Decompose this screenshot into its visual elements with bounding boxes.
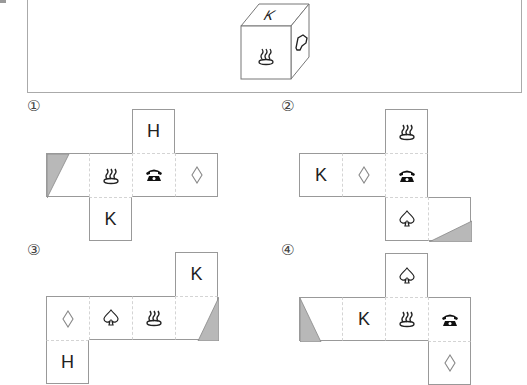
face-diamond (428, 341, 471, 385)
face-letter-h: H (46, 340, 89, 384)
letter-k: K (358, 309, 370, 330)
face-shaded-triangle (46, 153, 89, 197)
option-label-4[interactable]: ④ (281, 241, 294, 259)
shaded-triangle-icon (176, 297, 219, 341)
spade-icon (399, 267, 415, 285)
face-hot-spring (385, 109, 428, 153)
face-letter-k: K (89, 197, 132, 241)
diamond-icon (191, 166, 203, 184)
face-telephone (385, 153, 428, 197)
option-label-3[interactable]: ③ (27, 241, 40, 259)
option-label-2[interactable]: ② (281, 97, 294, 115)
telephone-icon (441, 313, 459, 327)
letter-k: K (190, 264, 202, 285)
face-letter-k: K (175, 252, 218, 296)
hot-spring-icon (398, 310, 416, 328)
face-letter-h: H (132, 109, 175, 153)
letter-k: K (104, 209, 116, 230)
reference-cube: K (0, 0, 527, 100)
face-hot-spring (132, 296, 175, 340)
shaded-triangle-icon (300, 298, 343, 342)
face-telephone (428, 297, 471, 341)
face-shaded-triangle (428, 197, 471, 241)
shaded-triangle-icon (47, 154, 90, 198)
option-label-1[interactable]: ① (27, 97, 40, 115)
hot-spring-icon (398, 123, 416, 141)
face-spade (385, 253, 428, 297)
letter-h: H (61, 352, 74, 373)
face-diamond (175, 153, 218, 197)
face-letter-k: K (299, 153, 342, 197)
diamond-icon (358, 166, 370, 184)
telephone-icon (145, 168, 163, 182)
diamond-icon (62, 310, 74, 328)
face-hot-spring (89, 153, 132, 197)
spade-icon (399, 210, 415, 228)
face-shaded-triangle (299, 297, 342, 341)
face-hot-spring (385, 297, 428, 341)
diamond-icon (444, 354, 456, 372)
face-diamond (46, 296, 89, 340)
letter-k: K (315, 165, 327, 186)
shaded-triangle-icon (429, 198, 472, 242)
hot-spring-icon (102, 167, 120, 185)
face-shaded-triangle (175, 296, 218, 340)
face-spade (89, 296, 132, 340)
face-letter-k: K (342, 297, 385, 341)
spade-icon (103, 309, 119, 327)
letter-h: H (147, 121, 160, 142)
cube-front-face (241, 26, 291, 79)
face-telephone (132, 153, 175, 197)
face-spade (385, 197, 428, 241)
hot-spring-icon (145, 309, 163, 327)
telephone-icon (398, 169, 416, 183)
face-diamond (342, 153, 385, 197)
